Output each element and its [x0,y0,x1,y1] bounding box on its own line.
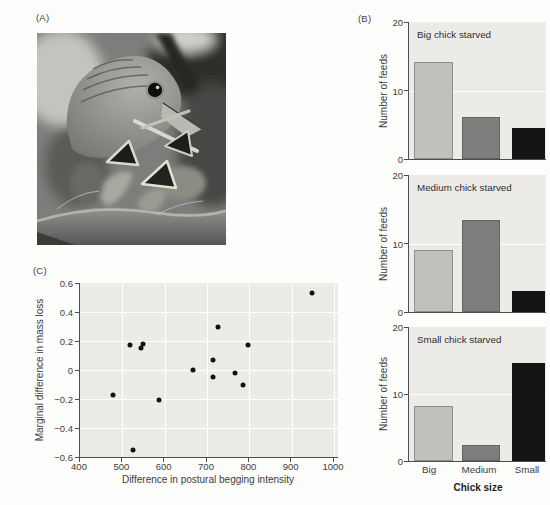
x-tick-label: 600 [156,461,172,472]
x-tick-label: 500 [113,461,129,472]
x-tick-label: 400 [71,461,87,472]
y-tick-label: 20 [381,170,403,181]
gridline [80,370,338,371]
chart-title: Small chick starved [417,334,501,345]
data-point [216,324,221,329]
data-point [128,343,133,348]
x-tick-label: 700 [198,461,214,472]
data-point [233,370,238,375]
data-point [309,291,314,296]
gridline [80,341,338,342]
y-tick-mark [75,428,79,429]
data-point [191,368,196,373]
category-label-big: Big [422,464,436,475]
x-axis-title: Difference in postural begging intensity [122,474,294,485]
bird-feeding-photo [37,33,226,245]
gridline [80,428,338,429]
data-point [241,382,246,387]
bar-medium [462,117,500,159]
panel-a-label: (A) [36,12,49,23]
bird-eye [148,83,162,97]
bar-chart-medium-chick-starved: Number of feeds01020Medium chick starved [370,175,546,312]
x-tick-mark [79,458,80,462]
y-tick-label: 0 [47,365,73,376]
x-tick-label: 1000 [322,461,343,472]
figure-page: (A) [0,0,550,505]
y-tick-mark [75,399,79,400]
bar-plot-area: Small chick starved [408,327,546,462]
y-tick-label: 10 [381,85,403,96]
y-tick-label: 0 [381,154,403,165]
bar-plot-area: Big chick starved [408,22,546,160]
bar-medium [462,445,500,461]
y-tick-mark [75,457,79,458]
data-point [131,447,136,452]
x-axis-title: Chick size [454,482,503,493]
y-tick-label: 0 [381,307,403,318]
category-label-medium: Medium [462,464,497,475]
y-tick-label: 0.4 [47,307,73,318]
bar-medium [462,220,500,312]
y-tick-label: 0.6 [47,278,73,289]
scatter-plot-begging-intensity: Marginal difference in mass lossDifferen… [30,262,365,502]
gridline [80,312,338,313]
x-tick-mark [248,458,249,462]
x-tick-mark [206,458,207,462]
gridline [80,399,338,400]
category-label-small: Small [515,464,540,475]
data-point [141,341,146,346]
data-point [156,398,161,403]
y-tick-mark [75,370,79,371]
y-tick-label: −0.6 [47,452,73,463]
data-point [246,343,251,348]
y-tick-label: 10 [381,238,403,249]
chart-title: Medium chick starved [417,182,512,193]
y-tick-label: 10 [381,389,403,400]
bar-small [512,128,545,159]
x-tick-mark [290,458,291,462]
y-tick-label: −0.2 [47,394,73,405]
bar-big [414,62,453,159]
y-tick-label: −0.4 [47,423,73,434]
bar-big [414,406,453,461]
x-tick-mark [333,458,334,462]
y-tick-label: 20 [381,17,403,28]
data-point [210,375,215,380]
bar-chart-big-chick-starved: Number of feeds01020Big chick starved [370,22,546,159]
data-point [111,392,116,397]
x-tick-mark [163,458,164,462]
bar-small [512,291,545,312]
y-tick-mark [75,283,79,284]
x-tick-label: 900 [283,461,299,472]
y-tick-label: 20 [381,322,403,333]
x-tick-label: 800 [240,461,256,472]
y-tick-label: 0.2 [47,336,73,347]
scatter-plot-area [79,283,338,458]
y-axis-label: Marginal difference in mass loss [34,299,45,442]
data-point [138,346,143,351]
chart-title: Big chick starved [417,29,491,40]
bird-feeding-photo-art [37,33,226,245]
bar-small [512,363,545,461]
bar-plot-area: Medium chick starved [408,175,546,313]
x-tick-mark [121,458,122,462]
y-tick-mark [75,341,79,342]
y-tick-mark [75,312,79,313]
data-point [210,357,215,362]
bar-big [414,250,453,312]
bar-chart-small-chick-starved: Number of feeds01020Small chick starved [370,327,546,461]
chick-size-axis: BigMediumSmallChick size [370,462,546,502]
